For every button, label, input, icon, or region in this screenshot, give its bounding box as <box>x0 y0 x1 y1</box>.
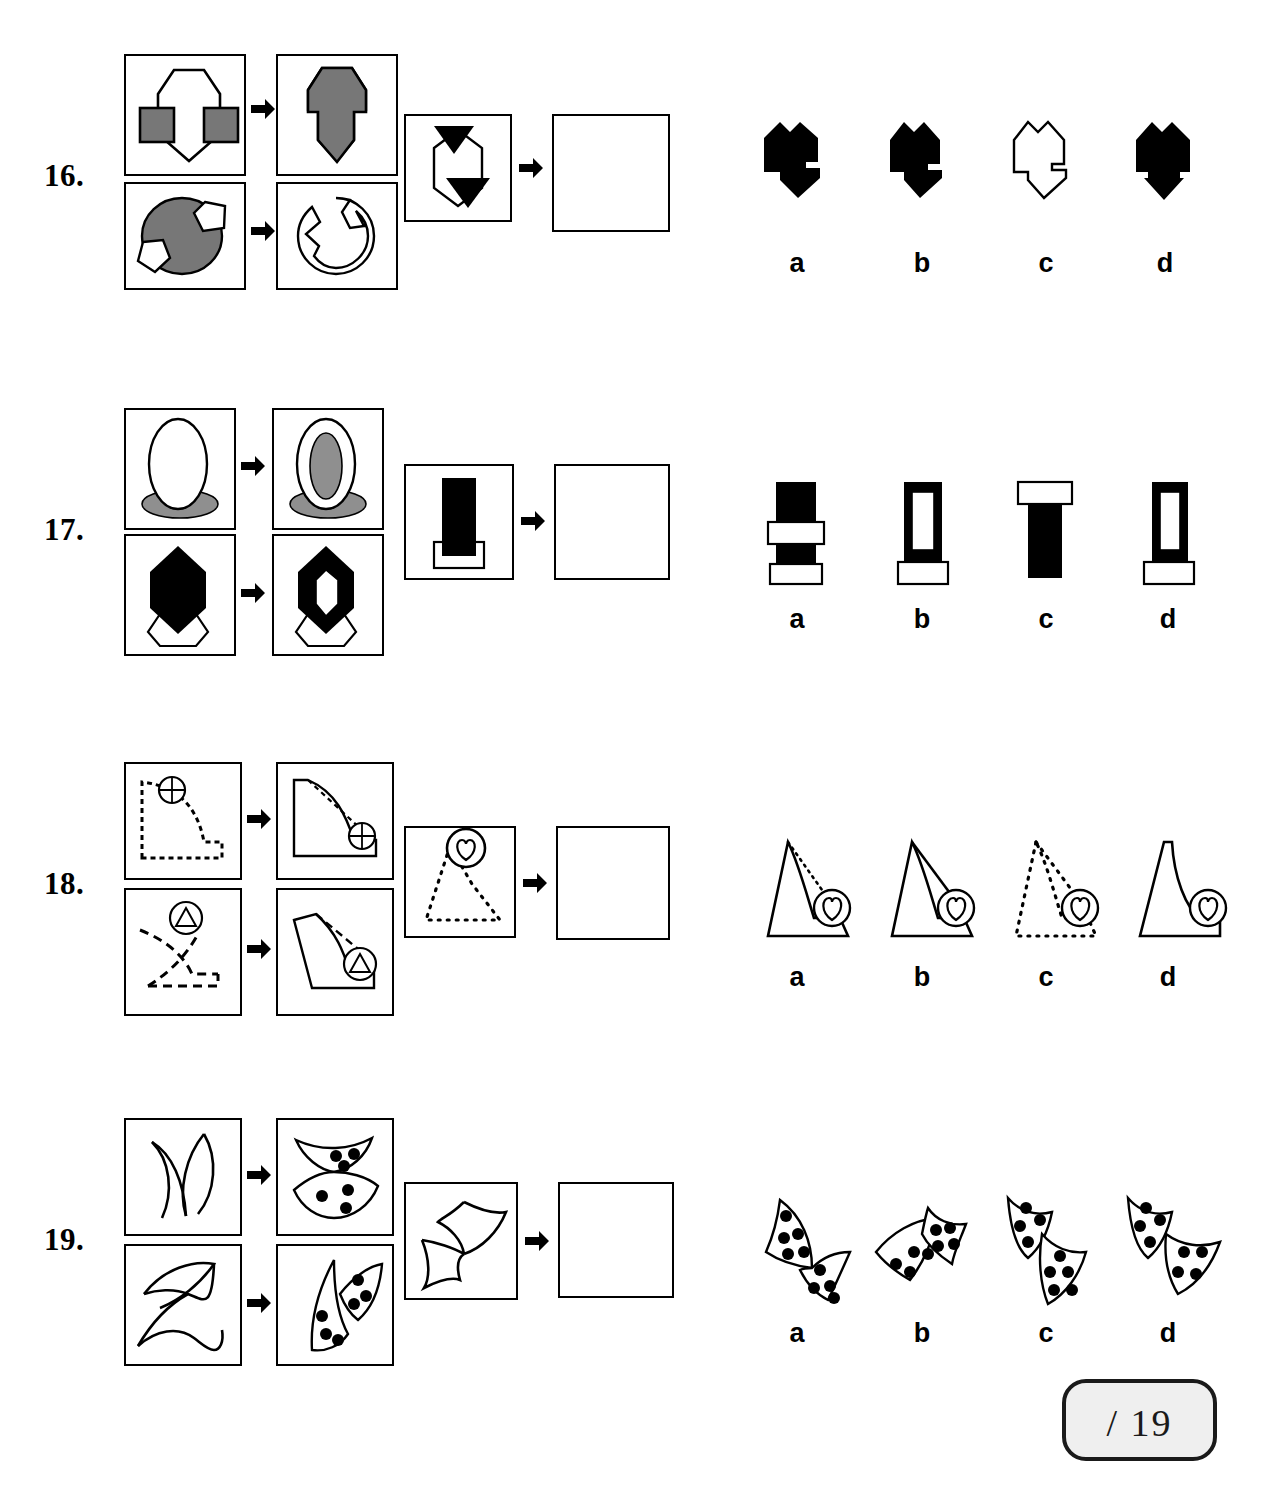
q16-option-a-label[interactable]: a <box>777 248 817 279</box>
q18-example-bottom-left-panel <box>124 888 242 1016</box>
q18-prompt-figure <box>406 828 514 936</box>
q16-option-d-label[interactable]: d <box>1145 248 1185 279</box>
q18-example-top-left-panel <box>124 762 242 880</box>
q16-option-b-label[interactable]: b <box>902 248 942 279</box>
q16-option-a-shape[interactable] <box>758 116 834 200</box>
q16-example-top-left-figure <box>126 56 244 174</box>
q18-example-bottom-left-figure <box>126 890 240 1014</box>
q16-example-bottom-left-panel <box>124 182 246 290</box>
q19-example-bottom-right-panel <box>276 1244 394 1366</box>
q19-answer-box[interactable] <box>558 1182 674 1298</box>
q17-option-a-label[interactable]: a <box>777 604 817 635</box>
q17-example-bottom-right-figure <box>274 536 382 654</box>
q19-arrow-top <box>246 1162 272 1188</box>
q19-prompt-arrow <box>524 1228 550 1254</box>
question-number-18: 18. <box>44 866 84 902</box>
q17-option-d-shape[interactable] <box>1136 478 1200 586</box>
q16-example-top-right-panel <box>276 54 398 176</box>
q17-option-a-shape[interactable] <box>766 478 828 586</box>
q16-prompt-figure <box>406 116 510 220</box>
q18-option-b-shape[interactable] <box>876 832 986 948</box>
q19-option-c-label[interactable]: c <box>1026 1318 1066 1349</box>
q18-option-c-shape[interactable] <box>1000 832 1110 948</box>
q17-example-top-left-figure <box>126 410 234 528</box>
q18-answer-box[interactable] <box>556 826 670 940</box>
question-number-17: 17. <box>44 512 84 548</box>
q19-example-top-right-figure <box>278 1120 392 1234</box>
q19-option-b-shape[interactable] <box>866 1190 986 1312</box>
q16-prompt-panel <box>404 114 512 222</box>
q17-arrow-bottom <box>240 580 266 606</box>
q16-example-bottom-right-panel <box>276 182 398 290</box>
q19-arrow-bottom <box>246 1290 272 1316</box>
q19-option-a-label[interactable]: a <box>777 1318 817 1349</box>
q19-option-d-label[interactable]: d <box>1148 1318 1188 1349</box>
q16-example-top-right-figure <box>278 56 396 174</box>
q17-option-c-label[interactable]: c <box>1026 604 1066 635</box>
q17-prompt-panel <box>404 464 514 580</box>
q17-example-top-right-panel <box>272 408 384 530</box>
q17-example-bottom-right-panel <box>272 534 384 656</box>
question-number-19: 19. <box>44 1222 84 1258</box>
score-total-label: / 19 <box>1066 1401 1213 1445</box>
q16-option-d-shape[interactable] <box>1128 116 1204 200</box>
q16-option-c-label[interactable]: c <box>1026 248 1066 279</box>
q17-example-bottom-left-figure <box>126 536 234 654</box>
q18-example-bottom-right-figure <box>278 890 392 1014</box>
q17-example-top-left-panel <box>124 408 236 530</box>
q19-example-top-right-panel <box>276 1118 394 1236</box>
q17-prompt-figure <box>406 466 512 578</box>
q19-prompt-panel <box>404 1182 518 1300</box>
q18-example-bottom-right-panel <box>276 888 394 1016</box>
q18-arrow-top <box>246 806 272 832</box>
test-page: 16. <box>0 0 1272 1496</box>
q16-answer-box[interactable] <box>552 114 670 232</box>
q18-option-a-shape[interactable] <box>752 832 862 948</box>
q19-option-c-shape[interactable] <box>992 1190 1110 1312</box>
q18-option-d-shape[interactable] <box>1124 832 1234 948</box>
score-box[interactable]: / 19 <box>1062 1379 1217 1461</box>
q19-option-a-shape[interactable] <box>744 1190 860 1312</box>
q18-option-b-label[interactable]: b <box>902 962 942 993</box>
q17-option-b-shape[interactable] <box>892 478 954 586</box>
q17-prompt-arrow <box>520 508 546 534</box>
q19-option-b-label[interactable]: b <box>902 1318 942 1349</box>
q17-option-c-shape[interactable] <box>1014 478 1076 586</box>
q19-example-bottom-right-figure <box>278 1246 392 1364</box>
q18-option-a-label[interactable]: a <box>777 962 817 993</box>
q18-option-c-label[interactable]: c <box>1026 962 1066 993</box>
q18-example-top-right-panel <box>276 762 394 880</box>
q16-option-b-shape[interactable] <box>884 116 956 200</box>
q17-example-bottom-left-panel <box>124 534 236 656</box>
q19-example-top-left-figure <box>126 1120 240 1234</box>
q16-prompt-arrow <box>518 155 544 181</box>
q19-example-top-left-panel <box>124 1118 242 1236</box>
q19-prompt-figure <box>406 1184 516 1298</box>
q16-example-top-left-panel <box>124 54 246 176</box>
q17-option-d-label[interactable]: d <box>1148 604 1188 635</box>
q18-example-top-left-figure <box>126 764 240 878</box>
q19-example-bottom-left-panel <box>124 1244 242 1366</box>
q17-example-top-right-figure <box>274 410 382 528</box>
q16-option-c-shape[interactable] <box>1008 116 1080 200</box>
question-number-16: 16. <box>44 158 84 194</box>
q17-arrow-top <box>240 453 266 479</box>
q18-arrow-bottom <box>246 936 272 962</box>
q16-example-bottom-right-figure <box>278 184 396 288</box>
q18-example-top-right-figure <box>278 764 392 878</box>
q19-example-bottom-left-figure <box>126 1246 240 1364</box>
q19-option-d-shape[interactable] <box>1114 1190 1236 1312</box>
q17-answer-box[interactable] <box>554 464 670 580</box>
q16-arrow-top <box>250 96 276 122</box>
q18-option-d-label[interactable]: d <box>1148 962 1188 993</box>
q17-option-b-label[interactable]: b <box>902 604 942 635</box>
q16-arrow-bottom <box>250 218 276 244</box>
q16-example-bottom-left-figure <box>126 184 244 288</box>
q18-prompt-panel <box>404 826 516 938</box>
q18-prompt-arrow <box>522 870 548 896</box>
